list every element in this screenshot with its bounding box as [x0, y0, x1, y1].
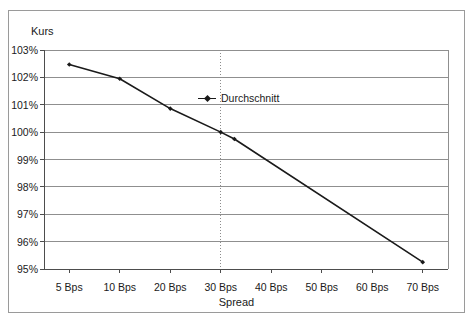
x-tick-label: 60 Bps	[356, 281, 389, 293]
x-tick-label: 5 Bps	[56, 281, 83, 293]
x-tick-label: 20 Bps	[154, 281, 187, 293]
legend-marker-durchschnitt	[198, 94, 216, 103]
axis-ticks	[40, 50, 423, 273]
y-tick-label: 103%	[0, 44, 38, 56]
y-tick-label: 95%	[0, 263, 38, 275]
y-tick-label: 97%	[0, 208, 38, 220]
y-axis-title: Kurs	[31, 25, 54, 37]
legend-label-durchschnitt: Durchschnitt	[221, 92, 279, 104]
x-tick-label: 50 Bps	[305, 281, 338, 293]
y-tick-label: 100%	[0, 126, 38, 138]
y-tick-label: 99%	[0, 154, 38, 166]
chart-legend: Durchschnitt	[198, 92, 279, 104]
line-chart: Kurs Spread 103%102%101%100%99%98%97%96%…	[0, 0, 473, 324]
x-tick-label: 40 Bps	[255, 281, 288, 293]
gridlines	[44, 50, 448, 269]
x-axis-title: Spread	[0, 296, 473, 308]
y-tick-label: 101%	[0, 99, 38, 111]
x-tick-label: 30 Bps	[204, 281, 237, 293]
x-tick-label: 70 Bps	[406, 281, 439, 293]
plot-canvas	[0, 0, 473, 324]
y-tick-label: 98%	[0, 181, 38, 193]
x-tick-label: 10 Bps	[103, 281, 136, 293]
y-tick-label: 96%	[0, 236, 38, 248]
y-tick-label: 102%	[0, 71, 38, 83]
